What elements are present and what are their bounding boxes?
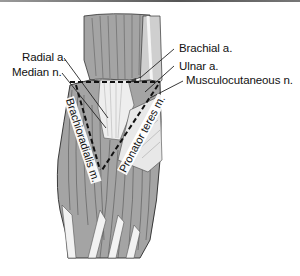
label-musculocutaneous-nerve: Musculocutaneous n. bbox=[186, 75, 293, 87]
label-ulnar-artery: Ulnar a. bbox=[179, 61, 218, 73]
figure-frame: Radial a. Median n. Brachial a. Ulnar a.… bbox=[0, 0, 300, 276]
label-brachial-artery: Brachial a. bbox=[179, 43, 232, 55]
forearm-illustration bbox=[0, 0, 300, 276]
label-median-nerve: Median n. bbox=[12, 67, 62, 79]
label-radial-artery: Radial a. bbox=[22, 52, 67, 64]
